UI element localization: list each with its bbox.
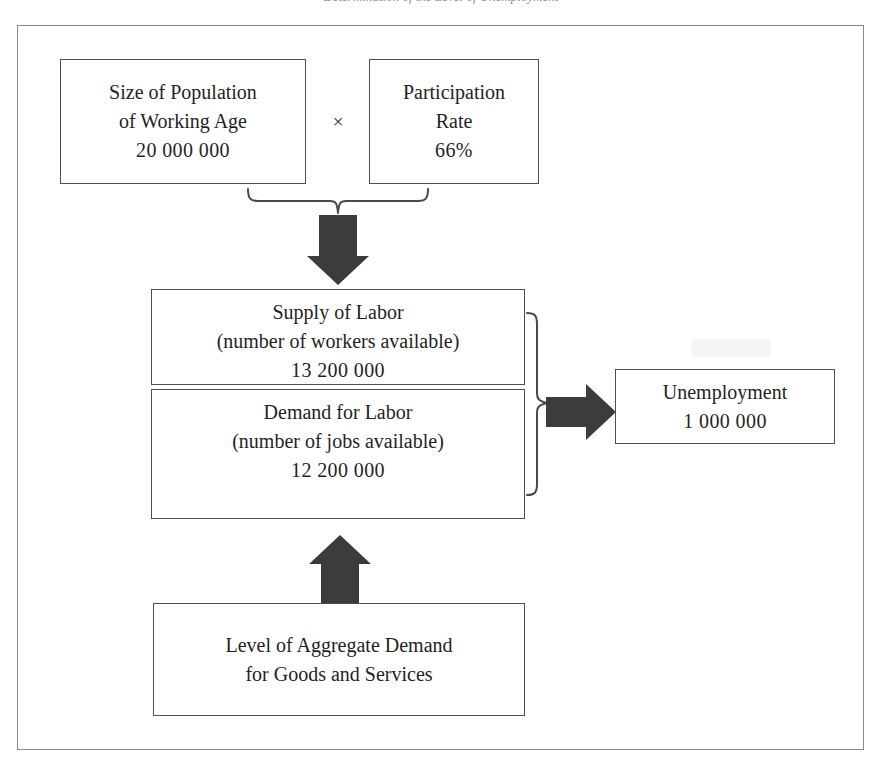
- box-demand-line-1: Demand for Labor: [264, 398, 413, 427]
- box-aggregate-line-2: for Goods and Services: [245, 660, 432, 689]
- box-population-line-2: of Working Age: [119, 107, 247, 136]
- box-unemployment-line-1: Unemployment: [663, 378, 787, 407]
- box-unemployment[interactable]: Unemployment 1 000 000: [615, 369, 835, 444]
- arrow-down-icon: [302, 215, 374, 287]
- arrow-right-icon: [546, 381, 618, 443]
- box-demand-value: 12 200 000: [291, 456, 385, 485]
- box-participation-value: 66%: [435, 136, 473, 165]
- scan-artifact: [691, 339, 771, 357]
- figure-caption-text: Determination of the Level of Unemployme…: [0, 0, 882, 5]
- box-participation-line-2: Rate: [436, 107, 473, 136]
- box-population-value: 20 000 000: [136, 136, 230, 165]
- box-participation-line-1: Participation: [403, 78, 505, 107]
- brace-top-down-icon: [244, 187, 432, 217]
- box-unemployment-value: 1 000 000: [683, 407, 767, 436]
- box-demand-line-2: (number of jobs available): [232, 427, 444, 456]
- diagram-frame: Size of Population of Working Age 20 000…: [17, 25, 864, 750]
- box-size-of-population[interactable]: Size of Population of Working Age 20 000…: [60, 59, 306, 184]
- arrow-up-icon: [304, 533, 376, 605]
- box-supply-of-labor[interactable]: Supply of Labor (number of workers avail…: [151, 289, 525, 385]
- box-supply-line-2: (number of workers available): [217, 327, 460, 356]
- box-demand-for-labor[interactable]: Demand for Labor (number of jobs availab…: [151, 389, 525, 519]
- box-level-of-aggregate-demand[interactable]: Level of Aggregate Demand for Goods and …: [153, 603, 525, 716]
- box-participation-rate[interactable]: Participation Rate 66%: [369, 59, 539, 184]
- diagram-page: Determination of the Level of Unemployme…: [0, 0, 882, 766]
- box-population-line-1: Size of Population: [109, 78, 257, 107]
- figure-caption: Determination of the Level of Unemployme…: [0, 0, 882, 5]
- box-supply-line-1: Supply of Labor: [272, 298, 403, 327]
- box-aggregate-line-1: Level of Aggregate Demand: [225, 631, 452, 660]
- multiply-operator-symbol: ×: [323, 107, 353, 137]
- box-supply-value: 13 200 000: [291, 356, 385, 385]
